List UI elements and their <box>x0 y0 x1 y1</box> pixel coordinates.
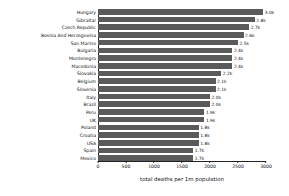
category-label: Poland <box>81 125 96 130</box>
category-label: Belgium <box>78 79 96 84</box>
bar <box>98 9 263 15</box>
category-label: Slovakia <box>77 71 96 76</box>
bar-value-label: 2.4k <box>234 56 244 61</box>
category-label: Bosnia And Herzegovina <box>41 32 96 37</box>
category-label: San Marino <box>71 40 96 45</box>
category-label: Montenegro <box>69 56 96 61</box>
category-label: Bulgaria <box>77 48 96 53</box>
bar-value-label: 2.1k <box>217 86 227 91</box>
bar-row: Brazil2.0k <box>98 101 266 107</box>
bar <box>98 40 238 46</box>
x-tick-label: 1500 <box>176 164 188 170</box>
bar <box>98 125 199 131</box>
bar <box>98 55 232 61</box>
plot-area: Hungary3.0kGibraltar2.8kCzech Republic2.… <box>98 9 266 161</box>
x-tick-mark <box>153 161 154 163</box>
category-label: Brazil <box>83 102 96 107</box>
bar <box>98 63 232 69</box>
x-tick: 500 <box>122 161 131 170</box>
x-tick-mark <box>126 161 127 163</box>
category-label: Italy <box>86 94 96 99</box>
category-label: UK <box>90 117 96 122</box>
bar-row: Bosnia And Herzegovina2.6k <box>98 32 266 38</box>
bar-value-label: 1.8k <box>200 125 210 130</box>
bar <box>98 24 249 30</box>
x-tick-label: 0 <box>97 164 100 170</box>
bar-value-label: 1.7k <box>195 156 205 161</box>
bar-row: San Marino2.5k <box>98 40 266 46</box>
category-label: Hungary <box>77 9 96 14</box>
category-label: USA <box>87 140 96 145</box>
x-tick-label: 500 <box>122 164 131 170</box>
bar-value-label: 1.8k <box>200 133 210 138</box>
x-tick: 1000 <box>148 161 160 170</box>
x-tick-label: 2500 <box>232 164 244 170</box>
category-label: Mexico <box>80 156 96 161</box>
category-label: Gibraltar <box>76 17 96 22</box>
bar-row: Belgium2.1k <box>98 78 266 84</box>
bar <box>98 109 204 115</box>
x-tick: 2500 <box>232 161 244 170</box>
x-tick: 3000 <box>260 161 272 170</box>
category-label: Peru <box>86 109 96 114</box>
bar-value-label: 2.2k <box>223 71 233 76</box>
bar-value-label: 2.7k <box>251 25 261 30</box>
bar-row: Hungary3.0k <box>98 9 266 15</box>
x-tick-label: 2000 <box>204 164 216 170</box>
bar-row: Gibraltar2.8k <box>98 17 266 23</box>
bar-value-label: 1.9k <box>206 117 216 122</box>
x-tick-mark <box>181 161 182 163</box>
bar-value-label: 2.6k <box>245 32 255 37</box>
x-axis-ticks: 050010001500200025003000 <box>98 161 266 175</box>
bar-value-label: 2.5k <box>240 40 250 45</box>
x-tick-mark <box>265 161 266 163</box>
bar-value-label: 2.8k <box>256 17 266 22</box>
bar-row: Czech Republic2.7k <box>98 24 266 30</box>
bar-row: Macedonia2.4k <box>98 63 266 69</box>
bar <box>98 140 199 146</box>
x-tick-mark <box>237 161 238 163</box>
bar-row: Spain1.7k <box>98 148 266 154</box>
x-tick-label: 1000 <box>148 164 160 170</box>
x-axis-label: total deaths per 1m population <box>98 176 266 183</box>
bar-row: Montenegro2.4k <box>98 55 266 61</box>
bar <box>98 48 232 54</box>
bar <box>98 101 210 107</box>
bar-value-label: 1.8k <box>200 140 210 145</box>
bar-row: Poland1.8k <box>98 125 266 131</box>
bar <box>98 32 244 38</box>
bar-value-label: 2.1k <box>217 79 227 84</box>
bar <box>98 86 216 92</box>
x-tick-mark <box>98 161 99 163</box>
bar-value-label: 2.4k <box>234 48 244 53</box>
bar-row: Slovakia2.2k <box>98 71 266 77</box>
category-label: Czech Republic <box>62 25 96 30</box>
bar-row: USA1.8k <box>98 140 266 146</box>
bar <box>98 17 255 23</box>
bar <box>98 148 193 154</box>
bar <box>98 71 221 77</box>
bar-rows: Hungary3.0kGibraltar2.8kCzech Republic2.… <box>98 9 266 161</box>
bar-value-label: 3.0k <box>265 9 275 14</box>
bar-row: Slovenia2.1k <box>98 86 266 92</box>
bar <box>98 78 216 84</box>
bar-row: UK1.9k <box>98 117 266 123</box>
bar-value-label: 1.7k <box>195 148 205 153</box>
bar-value-label: 2.4k <box>234 63 244 68</box>
bar-value-label: 1.9k <box>206 109 216 114</box>
bar-value-label: 2.0k <box>212 94 222 99</box>
x-tick: 2000 <box>204 161 216 170</box>
x-tick-mark <box>209 161 210 163</box>
category-label: Macedonia <box>72 63 96 68</box>
category-label: Croatia <box>80 133 96 138</box>
bar <box>98 117 204 123</box>
category-label: Spain <box>83 148 96 153</box>
bar-row: Bulgaria2.4k <box>98 48 266 54</box>
x-tick: 0 <box>97 161 100 170</box>
x-tick: 1500 <box>176 161 188 170</box>
bar-chart: Hungary3.0kGibraltar2.8kCzech Republic2.… <box>0 0 289 196</box>
bar <box>98 94 210 100</box>
x-tick-label: 3000 <box>260 164 272 170</box>
bar-row: Croatia1.8k <box>98 132 266 138</box>
category-label: Slovenia <box>77 86 96 91</box>
